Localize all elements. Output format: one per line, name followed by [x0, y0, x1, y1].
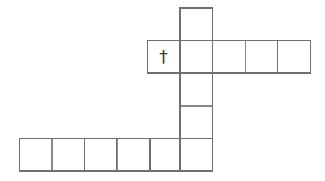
- net-cell: [19, 138, 52, 171]
- net-cell: [180, 138, 213, 171]
- polyomino-net-figure: †: [0, 0, 325, 181]
- net-cell: [180, 73, 213, 106]
- net-cell: [180, 8, 213, 41]
- dagger-cross-mark: †: [159, 47, 168, 67]
- net-cell: [85, 138, 118, 171]
- net-cell: [278, 41, 311, 74]
- net-group-lower-horizontal-row: [19, 138, 212, 171]
- net-cell: [213, 41, 246, 74]
- net-cell: [180, 41, 213, 74]
- net-cell: [150, 138, 183, 171]
- net-cell: [117, 138, 150, 171]
- net-cell: [245, 41, 278, 74]
- net-diagram: †: [0, 0, 325, 181]
- net-marker-layer: †: [159, 47, 168, 67]
- net-group-upper-horizontal-row: [147, 41, 310, 74]
- net-cell: [180, 106, 213, 139]
- net-cell: [52, 138, 85, 171]
